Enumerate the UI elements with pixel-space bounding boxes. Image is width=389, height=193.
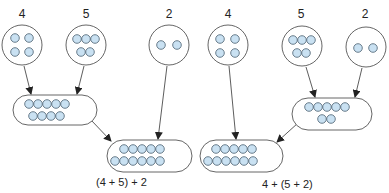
arrow-5-to-sum (77, 66, 84, 94)
arrow-5-to-sum (306, 67, 315, 97)
set-label-2: 2 (362, 7, 369, 21)
associativity-diagram: 4 5 2 (0, 0, 389, 193)
result-set-11-right (200, 140, 283, 172)
right-group: 4 5 2 (200, 7, 386, 190)
arrow-2-to-sum (355, 68, 362, 97)
set-circle-2 (149, 25, 189, 65)
intermediate-set-9 (13, 95, 97, 125)
right-caption: 4 + (5 + 2) (262, 178, 313, 190)
result-set-11-left (107, 140, 192, 172)
set-circle-5 (66, 25, 106, 65)
arrow-4-to-sum (24, 66, 31, 94)
set-circle-5 (282, 26, 322, 66)
arrow-sum-to-result (91, 120, 111, 141)
set-label-5: 5 (298, 7, 305, 21)
left-group: 4 5 2 (2, 7, 192, 188)
set-label-2: 2 (166, 7, 173, 21)
arrow-4-to-result (229, 66, 236, 139)
arrow-sum-to-result (277, 123, 298, 142)
set-circle-4 (2, 25, 42, 65)
set-label-4: 4 (225, 7, 232, 21)
intermediate-set-7 (292, 98, 372, 130)
left-caption: (4 + 5) + 2 (96, 176, 147, 188)
set-label-5: 5 (83, 7, 90, 21)
set-circle-2 (346, 27, 386, 67)
set-label-4: 4 (19, 7, 26, 21)
set-circle-4 (208, 25, 248, 65)
arrow-2-to-result (158, 66, 167, 139)
